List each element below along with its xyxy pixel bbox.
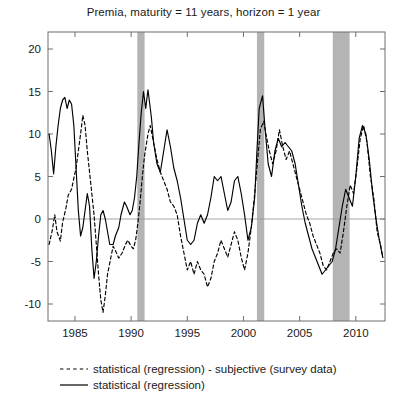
legend-label: statistical (regression): [93, 379, 205, 391]
premia-line-chart: -10-505101520198519901995200020052010 st…: [0, 0, 407, 410]
y-tick-label: 0: [35, 213, 41, 225]
recession-band: [333, 32, 350, 321]
y-tick-label: -5: [31, 256, 41, 268]
recession-shading: [137, 32, 349, 321]
recession-band: [257, 32, 264, 321]
y-tick-label: 20: [28, 43, 41, 55]
series-solid: [49, 90, 383, 279]
x-tick-label: 2000: [231, 327, 257, 339]
legend-label: statistical (regression) - subjective (s…: [93, 363, 337, 375]
x-tick-label: 1985: [62, 327, 88, 339]
series-dashed: [49, 115, 383, 312]
x-tick-label: 2010: [343, 327, 369, 339]
data-series-layer: [49, 90, 383, 313]
chart-legend: statistical (regression) - subjective (s…: [60, 363, 337, 391]
axis-tick-labels: -10-505101520198519901995200020052010: [24, 43, 368, 339]
y-tick-label: -10: [24, 298, 41, 310]
y-tick-label: 5: [35, 171, 41, 183]
x-tick-label: 1995: [174, 327, 200, 339]
recession-band: [137, 32, 144, 321]
x-tick-label: 2005: [287, 327, 313, 339]
x-tick-label: 1990: [118, 327, 144, 339]
y-tick-label: 10: [28, 128, 41, 140]
y-tick-label: 15: [28, 86, 41, 98]
